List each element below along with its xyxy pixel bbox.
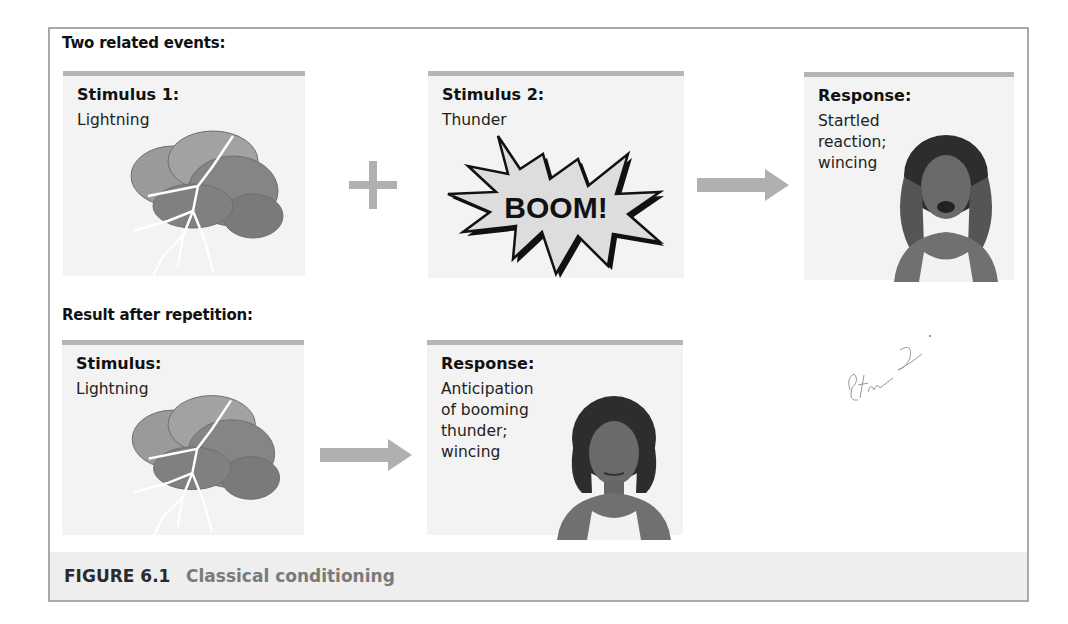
figure-label: FIGURE 6.1 bbox=[64, 566, 170, 586]
storm-cloud-lightning-illustration bbox=[112, 381, 292, 541]
storm-cloud-lightning-illustration bbox=[113, 116, 293, 281]
card-title: Response: bbox=[441, 354, 534, 373]
card-stimulus-2: Stimulus 2: Thunder BOOM! bbox=[428, 71, 684, 278]
woman-wincing-illustration bbox=[552, 393, 677, 540]
card-title: Stimulus 2: bbox=[442, 85, 544, 104]
card-description: Startled reaction; wincing bbox=[818, 111, 887, 174]
boom-burst-illustration: BOOM! bbox=[438, 114, 678, 284]
handwritten-annotation: Stu 2 bbox=[838, 330, 938, 410]
section-heading-result-after-repetition: Result after repetition: bbox=[62, 306, 253, 324]
figure-caption: FIGURE 6.1 Classical conditioning bbox=[50, 552, 1027, 600]
section-heading-two-related-events: Two related events: bbox=[62, 34, 225, 52]
svg-text:BOOM!: BOOM! bbox=[504, 191, 607, 224]
card-title: Stimulus: bbox=[76, 354, 162, 373]
card-response-startled: Response: Startled reaction; wincing bbox=[804, 72, 1014, 280]
arrow-right-icon bbox=[320, 439, 412, 471]
figure-title: Classical conditioning bbox=[186, 566, 395, 586]
card-title: Response: bbox=[818, 86, 911, 105]
card-response-anticipation: Response: Anticipation of booming thunde… bbox=[427, 340, 683, 535]
card-title: Stimulus 1: bbox=[77, 85, 179, 104]
plus-icon bbox=[349, 161, 397, 209]
woman-covering-ears-illustration bbox=[884, 127, 1009, 282]
card-stimulus-1: Stimulus 1: Lightning bbox=[63, 71, 305, 276]
arrow-right-icon bbox=[697, 169, 789, 201]
card-stimulus: Stimulus: Lightning bbox=[62, 340, 304, 535]
card-description: Anticipation of booming thunder; wincing bbox=[441, 379, 534, 463]
